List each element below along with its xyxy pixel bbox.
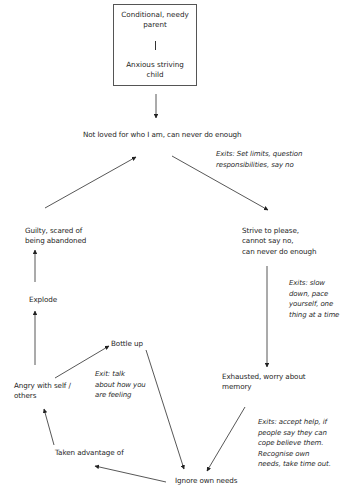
exit-angry-line1: Exit: talk xyxy=(95,369,146,380)
node-exhausted-line2: memory xyxy=(222,382,306,392)
exit-core-line2: responsibilities, say no xyxy=(216,160,302,171)
exit-exhausted-line1: Exits: accept help, if xyxy=(258,417,331,428)
exit-exhausted-line2: people say they can xyxy=(258,428,331,439)
exit-core: Exits: Set limits, question responsibili… xyxy=(216,149,302,170)
exit-exhausted: Exits: accept help, if people say they c… xyxy=(258,417,331,470)
node-guilty-line1: Guilty, scared of xyxy=(25,226,86,236)
exit-strive-line1: Exits: slow xyxy=(289,278,339,289)
node-exhausted-line1: Exhausted, worry about xyxy=(222,372,306,382)
exit-angry: Exit: talk about how you are feeling xyxy=(95,369,146,401)
node-strive: Strive to please, cannot say no, can nev… xyxy=(242,226,316,257)
node-core-belief: Not loved for who I am, can never do eno… xyxy=(83,130,242,140)
node-strive-line3: can never do enough xyxy=(242,247,316,257)
exit-angry-line2: about how you xyxy=(95,380,146,391)
node-strive-line1: Strive to please, xyxy=(242,226,316,236)
exit-exhausted-line3: cope believe them. xyxy=(258,438,331,449)
exit-angry-line3: are feeling xyxy=(95,390,146,401)
node-angry: Angry with self / others xyxy=(14,381,71,402)
arrow-guilty-to-core xyxy=(45,157,136,208)
node-exhausted: Exhausted, worry about memory xyxy=(222,372,306,393)
node-bottle-up: Bottle up xyxy=(111,339,143,349)
exit-strive-line2: down, pace xyxy=(289,289,339,300)
node-taken-advantage: Taken advantage of xyxy=(55,448,124,458)
node-guilty: Guilty, scared of being abandoned xyxy=(25,226,86,247)
exit-strive-line4: thing at a time xyxy=(289,310,339,321)
arrow-ignore-to-taken xyxy=(95,466,166,482)
node-ignore-needs: Ignore own needs xyxy=(175,476,237,486)
node-guilty-line2: being abandoned xyxy=(25,236,86,246)
node-angry-line2: others xyxy=(14,391,71,401)
exit-strive: Exits: slow down, pace yourself, one thi… xyxy=(289,278,339,320)
exit-exhausted-line4: Recognise own xyxy=(258,449,331,460)
arrow-exhausted-to-ignore xyxy=(207,407,245,471)
arrow-taken-to-angry xyxy=(44,409,54,445)
exit-core-line1: Exits: Set limits, question xyxy=(216,149,302,160)
exit-strive-line3: yourself, one xyxy=(289,299,339,310)
node-angry-line1: Angry with self / xyxy=(14,381,71,391)
node-strive-line2: cannot say no, xyxy=(242,236,316,246)
node-explode: Explode xyxy=(29,295,57,305)
exit-exhausted-line5: needs, take time out. xyxy=(258,459,331,470)
arrow-bottle-to-ignore xyxy=(146,350,184,469)
